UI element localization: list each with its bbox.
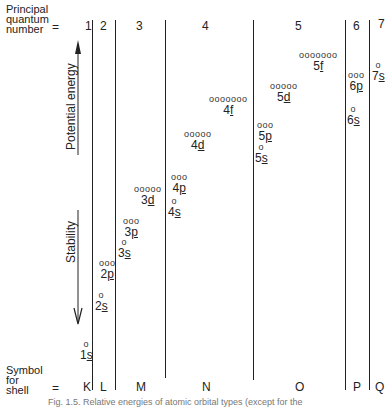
orbital-label: 6p <box>348 80 365 92</box>
orbital-4s: o 4s <box>168 197 181 218</box>
orbital-label: 6s <box>347 114 360 126</box>
principal-number-3: 3 <box>136 19 143 33</box>
principal-number-7: 7 <box>378 17 385 31</box>
orbital-label: 7s <box>372 70 385 82</box>
orbital-label: 3s <box>118 247 131 259</box>
shell-symbol-m: M <box>136 380 146 394</box>
principal-number-4: 4 <box>202 19 209 33</box>
orbital-4f: ooooooo 4f <box>209 95 248 116</box>
orbital-label: 4p <box>171 182 188 194</box>
orbital-label: 2s <box>95 300 108 312</box>
stability-label: Stability <box>64 221 78 263</box>
orbital-1s: o 1s <box>80 340 93 361</box>
header-equals: = <box>52 20 59 34</box>
orbital-5d: ooooo 5d <box>270 82 298 103</box>
symbol-for-shell-label: Symbol for shell <box>6 365 43 395</box>
divider-line <box>165 20 166 378</box>
shell-symbol-q: Q <box>375 380 384 394</box>
orbital-7s: o 7s <box>372 61 385 82</box>
orbital-label: 5f <box>299 60 338 72</box>
principal-number-6: 6 <box>353 19 360 33</box>
orbital-3p: ooo 3p <box>123 217 140 238</box>
shell-symbol-p: P <box>353 380 361 394</box>
orbital-5s: o 5s <box>255 143 268 164</box>
orbital-label: 4d <box>184 139 212 151</box>
potential-energy-label: Potential energy <box>64 63 78 150</box>
principal-number-1: 1 <box>85 19 92 33</box>
orbital-label: 5p <box>257 130 274 142</box>
orbital-4d: ooooo 4d <box>184 130 212 151</box>
orbital-label: 5s <box>255 152 268 164</box>
orbital-5p: ooo 5p <box>257 121 274 142</box>
shell-symbol-n: N <box>202 380 211 394</box>
orbital-6p: ooo 6p <box>348 71 365 92</box>
divider-line <box>115 20 116 390</box>
orbital-label: 3d <box>134 194 162 206</box>
orbital-3d: ooooo 3d <box>134 185 162 206</box>
shell-symbol-k: K <box>83 380 91 394</box>
orbital-2s: o 2s <box>95 291 108 312</box>
label-line: number <box>6 24 49 34</box>
label-line: shell <box>6 385 43 395</box>
shell-symbol-l: L <box>100 380 107 394</box>
principal-number-5: 5 <box>295 19 302 33</box>
orbital-6s: o 6s <box>347 105 360 126</box>
principal-quantum-number-label: Principal quantum number <box>6 4 49 34</box>
orbital-label: 2p <box>99 268 116 280</box>
divider-line <box>253 20 254 380</box>
orbital-2p: ooo 2p <box>99 259 116 280</box>
shell-symbol-o: O <box>295 380 304 394</box>
divider-line <box>369 20 370 390</box>
orbital-label: 4s <box>168 206 181 218</box>
figure-caption: Fig. 1.5. Relative energies of atomic or… <box>48 397 303 407</box>
orbital-5f: ooooooo 5f <box>299 51 338 72</box>
orbital-label: 4f <box>209 104 248 116</box>
footer-equals: = <box>52 381 59 395</box>
principal-number-2: 2 <box>100 19 107 33</box>
orbital-label: 3p <box>123 226 140 238</box>
orbital-label: 5d <box>270 91 298 103</box>
divider-line <box>92 20 93 390</box>
divider-line <box>345 20 346 390</box>
orbital-3s: o 3s <box>118 238 131 259</box>
orbital-4p: ooo 4p <box>171 173 188 194</box>
orbital-label: 1s <box>80 349 93 361</box>
